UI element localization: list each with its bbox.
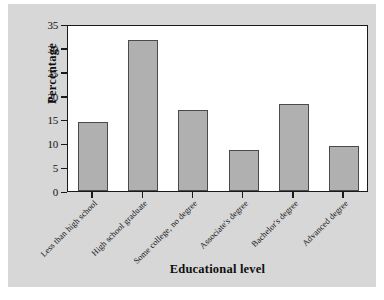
bar[interactable] — [329, 146, 359, 191]
bar[interactable] — [128, 40, 158, 191]
bar[interactable] — [279, 104, 309, 191]
y-axis-tick-label: 10 — [47, 136, 58, 152]
chart-figure: 05101520253035 Percentage Less than high… — [8, 4, 376, 287]
bar-series — [68, 26, 367, 191]
x-axis-tick-labels: Less than high schoolHigh school graduat… — [67, 198, 368, 256]
y-axis-tick-label: 5 — [53, 160, 58, 176]
x-axis-title: Educational level — [67, 262, 368, 277]
bar[interactable] — [78, 122, 108, 191]
y-axis-title: Percentage — [45, 24, 60, 124]
bar[interactable] — [229, 150, 259, 192]
y-axis-tick-label: 0 — [53, 184, 58, 200]
plot-area — [67, 25, 368, 192]
bar[interactable] — [178, 110, 208, 191]
